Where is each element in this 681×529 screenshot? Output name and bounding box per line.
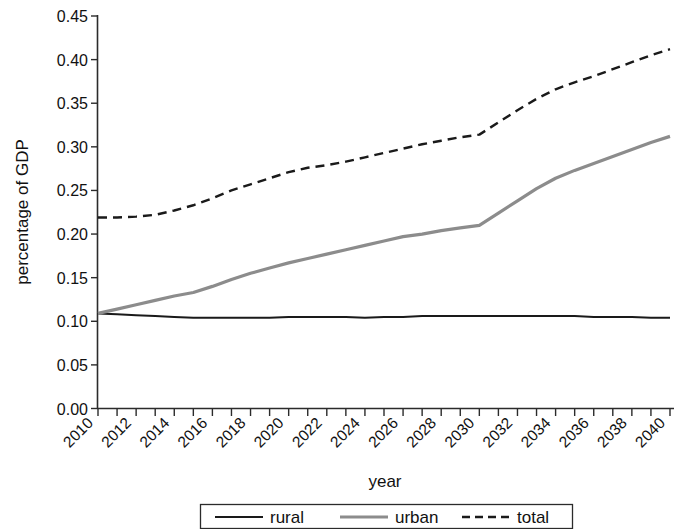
x-tick-label: 2018 [212,414,248,450]
x-tick-label: 2030 [441,414,478,451]
y-tick-label: 0.40 [57,52,88,69]
legend-label-total: total [517,508,549,527]
y-axis-tick-labels: 0.000.050.100.150.200.250.300.350.400.45 [57,8,88,418]
y-axis-title: percentage of GDP [13,139,32,285]
legend: ruralurbantotal [201,505,573,529]
x-tick-label: 2034 [517,414,554,451]
y-tick-label: 0.45 [57,8,88,25]
series-line-urban [98,136,670,313]
series-line-rural [98,313,670,317]
y-tick-label: 0.10 [57,313,88,330]
x-tick-label: 2012 [98,414,134,450]
x-tick-label: 2016 [174,414,210,450]
x-tick-label: 2038 [594,414,630,450]
x-axis-title: year [368,472,401,491]
y-axis-tick-marks [91,16,98,409]
y-tick-label: 0.30 [57,139,88,156]
line-chart: 0.000.050.100.150.200.250.300.350.400.45… [0,0,681,529]
y-tick-label: 0.05 [57,357,88,374]
y-tick-label: 0.20 [57,226,88,243]
y-tick-label: 0.15 [57,270,88,287]
x-tick-label: 2024 [327,414,364,451]
x-tick-label: 2040 [632,414,669,451]
x-axis-tick-marks [98,409,670,417]
x-tick-label: 2032 [479,414,515,450]
x-tick-label: 2026 [365,414,401,450]
x-tick-label: 2028 [403,414,439,450]
x-axis-tick-labels: 2010201220142016201820202022202420262028… [60,414,669,451]
x-tick-label: 2014 [136,414,173,451]
x-tick-label: 2010 [60,414,97,451]
legend-label-urban: urban [395,508,438,527]
legend-label-rural: rural [270,508,304,527]
series-paths [98,49,670,318]
x-tick-label: 2022 [289,414,325,450]
y-tick-label: 0.25 [57,182,88,199]
series-line-total [98,49,670,217]
y-tick-label: 0.35 [57,95,88,112]
chart-container: 0.000.050.100.150.200.250.300.350.400.45… [0,0,681,529]
x-tick-label: 2020 [250,414,287,451]
x-tick-label: 2036 [555,414,591,450]
